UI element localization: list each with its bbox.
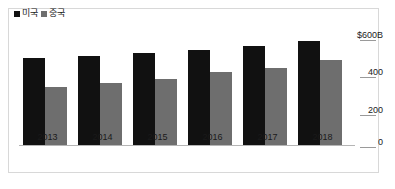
y-tick-label-400: 400 <box>340 67 386 77</box>
y-tick-mark-400 <box>360 77 376 78</box>
y-tick-0: 0 <box>340 137 386 148</box>
bars-2016 <box>188 19 237 145</box>
bar-us-2017[interactable] <box>243 46 265 145</box>
bar-chart: 미국 중국 2013 2014 <box>0 0 395 189</box>
y-tick-label-600: $600B <box>340 30 386 40</box>
bar-us-2016[interactable] <box>188 50 210 145</box>
y-tick-mark-600 <box>360 40 376 41</box>
x-tick-label-2016: 2016 <box>188 132 237 142</box>
y-tick-label-0: 0 <box>340 137 386 147</box>
bars-2015 <box>133 19 182 145</box>
bar-group-2017: 2017 <box>243 19 292 145</box>
y-tick-400: 400 <box>340 67 386 78</box>
bar-group-2015: 2015 <box>133 19 182 145</box>
y-tick-label-200: 200 <box>340 105 386 115</box>
bar-group-2013: 2013 <box>23 19 72 145</box>
bars-2014 <box>78 19 127 145</box>
bars-2013 <box>23 19 72 145</box>
x-tick-label-2017: 2017 <box>243 132 292 142</box>
x-tick-label-2013: 2013 <box>23 132 72 142</box>
y-tick-200: 200 <box>340 105 386 116</box>
x-tick-label-2015: 2015 <box>133 132 182 142</box>
x-tick-label-2014: 2014 <box>78 132 127 142</box>
y-tick-mark-200 <box>360 115 376 116</box>
plot-area: 2013 2014 2015 2016 <box>9 0 339 165</box>
y-axis: $600B 400 200 0 <box>340 0 386 165</box>
bar-us-2018[interactable] <box>298 41 320 145</box>
x-axis-line <box>19 145 355 146</box>
bar-group-2016: 2016 <box>188 19 237 145</box>
y-tick-mark-0 <box>360 147 376 148</box>
bars-2017 <box>243 19 292 145</box>
y-tick-600: $600B <box>340 30 386 41</box>
bar-group-2014: 2014 <box>78 19 127 145</box>
